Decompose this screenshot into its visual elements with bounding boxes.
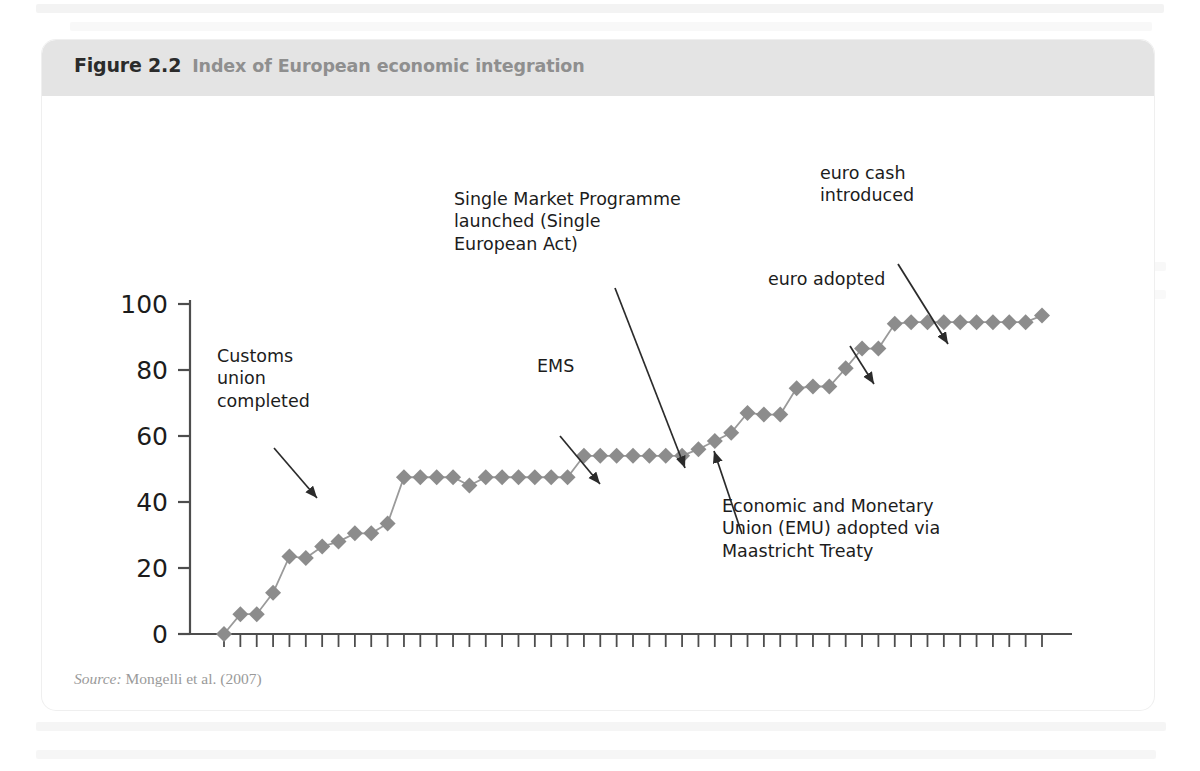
series-line: [224, 316, 1042, 634]
data-point-marker: [690, 441, 706, 457]
data-point-marker: [494, 469, 510, 485]
leader-euro-cash: [898, 264, 948, 344]
data-point-marker: [658, 448, 674, 464]
source-line: Source: Mongelli et al. (2007): [74, 670, 262, 688]
data-point-marker: [461, 478, 477, 494]
data-point-marker: [347, 525, 363, 541]
data-point-marker: [380, 515, 396, 531]
source-text: Mongelli et al. (2007): [122, 670, 262, 687]
y-tick-label: 80: [136, 356, 168, 385]
data-point-marker: [298, 550, 314, 566]
data-point-marker: [249, 606, 265, 622]
data-point-marker: [510, 469, 526, 485]
data-point-marker: [576, 448, 592, 464]
data-point-marker: [445, 469, 461, 485]
figure-header-band: Figure 2.2 Index of European economic in…: [42, 40, 1154, 96]
leader-customs-union: [274, 448, 317, 498]
data-point-marker: [919, 314, 935, 330]
data-point-marker: [396, 469, 412, 485]
data-point-marker: [609, 448, 625, 464]
data-point-marker: [527, 469, 543, 485]
data-point-marker: [641, 448, 657, 464]
data-point-marker: [1034, 308, 1050, 324]
data-point-marker: [903, 314, 919, 330]
annotation-leader-lines: [274, 264, 948, 534]
data-point-marker: [429, 469, 445, 485]
data-point-marker: [478, 469, 494, 485]
leader-single-market: [615, 288, 685, 468]
data-point-marker: [625, 448, 641, 464]
data-point-marker: [789, 380, 805, 396]
x-axis-ticks: [224, 634, 1042, 647]
data-point-marker: [756, 407, 772, 423]
y-tick-label: 60: [136, 422, 168, 451]
y-tick-label: 100: [120, 290, 168, 319]
y-tick-label: 20: [136, 554, 168, 583]
data-point-marker: [952, 314, 968, 330]
annotation-euro-cash-introduced: euro cash introduced: [820, 162, 914, 207]
data-point-marker: [772, 407, 788, 423]
figure-header-inner: Figure 2.2 Index of European economic in…: [74, 54, 585, 76]
data-point-marker: [707, 433, 723, 449]
data-point-marker: [412, 469, 428, 485]
annotation-ems: EMS: [537, 355, 574, 377]
y-axis-tick-labels: 020406080100: [120, 290, 168, 649]
data-point-marker: [543, 469, 559, 485]
data-point-marker: [314, 539, 330, 555]
data-point-marker: [363, 525, 379, 541]
figure-card: Figure 2.2 Index of European economic in…: [42, 40, 1154, 710]
y-tick-label: 40: [136, 488, 168, 517]
y-axis-ticks: [178, 304, 190, 634]
annotation-single-market-programme: Single Market Programme launched (Single…: [454, 188, 681, 255]
series-polyline: [224, 316, 1042, 634]
figure-number: Figure 2.2: [74, 54, 181, 76]
data-point-marker: [265, 585, 281, 601]
data-point-marker: [331, 534, 347, 550]
data-point-marker: [1018, 314, 1034, 330]
data-point-marker: [870, 341, 886, 357]
annotation-emu-maastricht: Economic and Monetary Union (EMU) adopte…: [722, 495, 940, 562]
annotation-euro-adopted: euro adopted: [768, 268, 885, 290]
data-point-marker: [985, 314, 1001, 330]
annotation-customs-union: Customs union completed: [217, 345, 310, 412]
chart-plot-area: 020406080100 195719591961196319651967196…: [42, 96, 1154, 656]
data-point-marker: [805, 379, 821, 395]
data-point-marker: [887, 316, 903, 332]
data-point-marker: [592, 448, 608, 464]
data-point-marker: [281, 548, 297, 564]
series-markers: [216, 308, 1050, 642]
data-point-marker: [560, 469, 576, 485]
source-label: Source:: [74, 670, 122, 687]
chart-axes: [190, 300, 1072, 634]
data-point-marker: [1001, 314, 1017, 330]
line-chart-svg: 020406080100 195719591961196319651967196…: [42, 96, 1154, 656]
y-tick-label: 0: [152, 620, 168, 649]
data-point-marker: [969, 314, 985, 330]
figure-caption: Index of European economic integration: [192, 56, 584, 76]
